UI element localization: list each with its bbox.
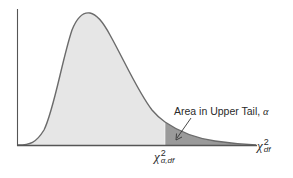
chi-square-chart: [0, 0, 293, 178]
critical-value-label: χ2α,df: [154, 147, 174, 165]
body-area: [18, 13, 165, 145]
x-axis-label: χ2df: [257, 136, 270, 154]
annotation-text: Area in Upper Tail,: [174, 105, 263, 117]
chi-symbol: χ: [257, 138, 263, 153]
alpha-symbol: α: [263, 106, 269, 117]
crit-chi-symbol: χ: [154, 149, 160, 164]
x-axis-subscript: df: [264, 146, 271, 154]
upper-tail-area: [165, 122, 256, 145]
upper-tail-annotation: Area in Upper Tail, α: [174, 105, 269, 117]
crit-subscript: α,df: [161, 157, 174, 165]
